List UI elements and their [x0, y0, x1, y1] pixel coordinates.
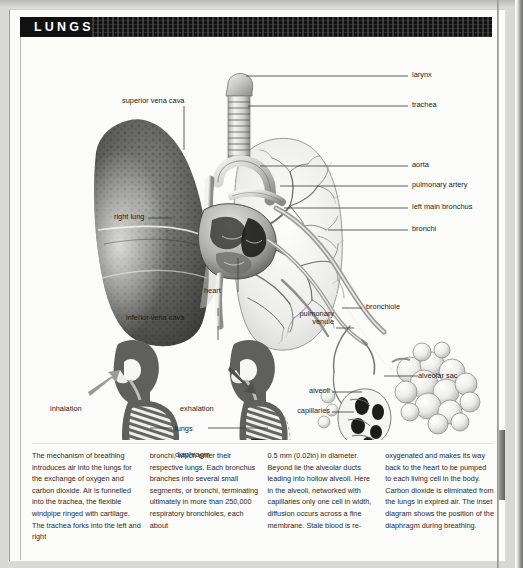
label-trachea: trachea — [412, 101, 437, 110]
label-capillaries: capillaries — [258, 407, 330, 416]
page-spine-line — [497, 0, 499, 568]
page-left-rule — [20, 37, 21, 560]
text-divider-rule — [32, 443, 494, 444]
label-pulmonary-artery: pulmonary artery — [412, 181, 467, 190]
label-bronchi: bronchi — [412, 225, 436, 234]
window-top-strip — [0, 0, 523, 8]
label-right-lung: right lung — [114, 213, 144, 222]
label-alveoli: alveoli — [272, 387, 330, 396]
larynx-graphic — [226, 73, 253, 96]
body-text-columns: The mechanism of breathing introduces ai… — [32, 450, 494, 560]
label-inferior-vena-cava: inferior vena cava — [126, 314, 184, 323]
label-heart: heart — [204, 287, 221, 296]
label-exhalation: exhalation — [180, 404, 214, 413]
label-larynx: larynx — [412, 71, 432, 80]
body-column-1: The mechanism of breathing introduces ai… — [32, 450, 141, 560]
book-page: LUNGS — [9, 9, 505, 561]
label-lungs: lungs — [175, 424, 193, 433]
body-column-4: oxygenated and makes its way back to the… — [385, 450, 494, 560]
alveolar-sac-graphic — [392, 342, 480, 434]
page-tab-marker — [498, 430, 505, 500]
section-header-bar: LUNGS — [20, 17, 492, 37]
label-alveolar-sac: alveolar sac — [418, 372, 457, 381]
label-aorta: aorta — [412, 161, 429, 170]
body-column-2: bronchi, which enter their respective lu… — [150, 450, 259, 560]
header-texture — [92, 17, 492, 37]
label-bronchiole: bronchiole — [366, 303, 400, 312]
page-right-edge — [515, 0, 523, 568]
label-pulmonary-venule-line2: venule — [264, 318, 334, 327]
page-title: LUNGS — [34, 20, 94, 34]
inset-inhalation-figure — [88, 340, 179, 440]
label-superior-vena-cava: superior vena cava — [122, 97, 184, 106]
label-inhalation: inhalation — [50, 404, 82, 413]
illustration-frame: larynx trachea aorta pulmonary artery le… — [32, 40, 492, 440]
label-left-main-bronchus: left main bronchus — [412, 203, 472, 212]
body-column-3: 0.5 mm (0.02in) in diameter. Beyond lie … — [268, 450, 377, 560]
